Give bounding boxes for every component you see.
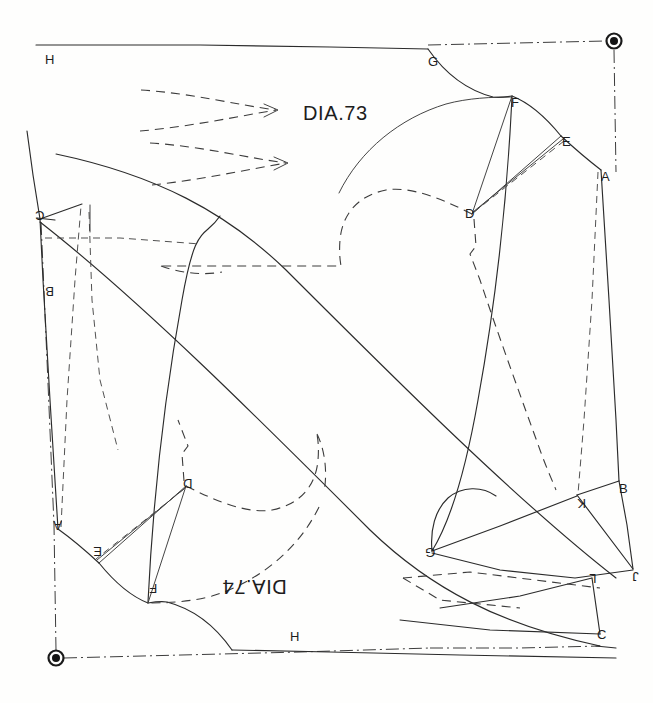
diagram-title-74: DIA.74 [222,577,287,597]
dia74-edge-c-lower [400,620,600,634]
dia73-dart-leg-d-e2 [473,139,563,212]
pivot-axis-bottom-vertical [54,525,56,650]
pattern-drawing-sheet: DIA.73 DIA.74 H G F E A D B K J G C H C … [0,0,653,703]
dia73-dart-centre-line [474,141,564,212]
point-label-dia73-g: G [428,55,438,68]
dia74-panel-dash-b [403,578,520,608]
pivot-axis-top-horizontal [428,41,606,45]
dia73-panel-top-g-k [432,496,577,551]
dia73-princess-seam [432,97,512,551]
tick-left-curve [89,212,118,450]
construction-ticks [37,205,616,648]
dart-2-upper-leg [150,143,286,163]
dashed-line-from-d-rot [178,420,188,481]
point-label-dia73-b: B [619,482,628,495]
dart-1-lower-leg [140,110,276,131]
dia74-hem-sweep [56,154,616,578]
diagram-73-outline [36,45,633,646]
point-label-dia74-b: B [45,285,54,298]
dia73-top-edge [36,45,428,49]
point-label-dia73-h-hem: H [290,630,300,643]
dia73-shoulder-f-e [512,96,561,136]
pivot-marker-bottom-left[interactable] [49,651,64,666]
point-label-dia73-f: F [511,96,519,109]
dia74-side-seam [40,219,58,529]
point-label-dia73-k: K [577,497,586,510]
dia74-edge-c-top [27,131,40,219]
dia74-dart-centre-line [96,489,184,559]
construction-dashed-shapes [161,189,556,511]
pivot-axis-lines [41,41,616,658]
dia73-hem-sweep [40,222,600,646]
dart-2-lower-leg [152,163,286,185]
dia73-neck-curve-g-f [428,49,512,97]
point-label-dia73-d: D [465,207,475,220]
dia74-panel-edge [440,578,592,608]
dia74-bottom-edge [232,650,616,658]
point-label-dia73-a: A [601,170,610,183]
dia74-neck-curve [148,602,232,650]
point-label-dia74-c: C [35,209,45,222]
dia74-panel-dash-top [45,238,200,244]
point-label-dia73-j: J [632,570,639,583]
point-label-dia73-g-lower: G [425,546,435,559]
dia73-side-seam-a-b [601,170,619,481]
point-label-dia74-f: F [149,582,157,595]
point-label-dia74-e: E [93,545,102,558]
point-label-dia73-h-top: H [45,53,55,66]
dia74-edge-l-c [592,578,600,634]
dia74-shoulder [99,563,148,603]
pivot-axis-top-vertical [614,50,616,172]
pivot-marker-top-right[interactable] [607,34,622,49]
diagram-74-outline [27,131,616,658]
point-label-dia74-a: A [53,519,62,532]
dart-shapes [140,90,288,185]
dashed-bust-outline-rot [186,434,318,511]
dia73-alt-side-line [578,172,598,494]
tick-c-bottom [596,646,616,648]
dart-1-upper-leg [141,90,276,110]
dia73-edge-k-b [577,481,619,495]
dia73-panel-bottom-g-j [432,553,633,578]
dia73-underarm-scoop [432,489,496,551]
dia74-edge-panel-a [40,204,82,219]
centre-axis-bottom-right [430,646,600,648]
point-label-dia74-d: D [183,477,193,490]
dashed-bust-outline [161,189,472,266]
point-label-dia74-l: L [589,572,596,585]
point-label-dia73-c: C [597,628,607,641]
dashed-bust-tail [161,266,222,274]
dia74-alt-side-line [61,206,81,527]
point-label-dia73-e: E [562,135,571,148]
dashed-line-from-d [470,219,556,490]
diagram-title-73: DIA.73 [303,103,368,123]
